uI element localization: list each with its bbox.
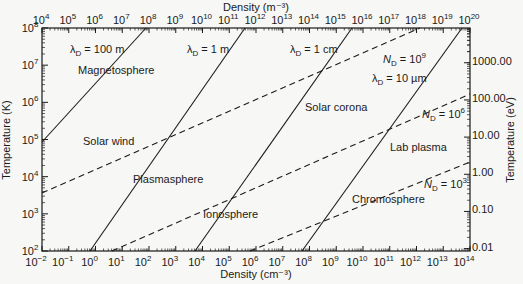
x-tick-label-top: 1020 — [458, 12, 480, 26]
x-tick-label-top: 1019 — [432, 12, 454, 26]
line-label: ND = 106 — [422, 106, 466, 123]
x-tick-label-bottom: 1011 — [373, 254, 394, 268]
x-tick-label-top: 1014 — [298, 12, 320, 26]
x-axis-title-bottom: Density (cm⁻³) — [220, 268, 291, 280]
x-tick-label-top: 107 — [113, 12, 130, 26]
line-label: λD = 1 cm — [290, 43, 338, 58]
y-tick-label-left: 102 — [22, 243, 39, 257]
region-label: Magnetosphere — [78, 64, 154, 76]
x-tick-label-bottom: 1012 — [400, 254, 422, 268]
x-tick-label-top: 1013 — [271, 12, 293, 26]
x-tick-label-bottom: 1010 — [346, 254, 368, 268]
x-tick-label-bottom: 102 — [135, 254, 152, 268]
y-tick-label-left: 105 — [22, 132, 39, 146]
plasma-parameter-chart: 10−210410−110510010610110710210810310910… — [0, 0, 523, 284]
x-tick-label-bottom: 101 — [108, 254, 125, 268]
x-tick-label-top: 1018 — [405, 12, 427, 26]
y-tick-label-right: 0.01 — [472, 241, 493, 253]
x-tick-label-top: 1016 — [351, 12, 373, 26]
region-label: Lab plasma — [390, 141, 448, 153]
region-label: Ionosphere — [203, 208, 258, 220]
x-tick-label-top: 1010 — [191, 12, 213, 26]
y-tick-label-right: 10.00 — [472, 129, 500, 141]
region-label: Solar wind — [83, 135, 134, 147]
region-label: Solar corona — [305, 101, 368, 113]
x-tick-label-bottom: 106 — [242, 254, 259, 268]
line-label: λD = 1 m — [187, 43, 229, 58]
x-tick-label-top: 1011 — [218, 12, 239, 26]
x-tick-label-bottom: 103 — [161, 254, 178, 268]
y-axis-title-left: Temperature (K) — [0, 100, 12, 179]
y-tick-label-right: 1.00 — [472, 166, 493, 178]
x-axis-title-top: Density (m⁻³) — [223, 1, 289, 13]
y-tick-label-left: 107 — [22, 57, 39, 71]
x-tick-label-top: 106 — [86, 12, 103, 26]
x-tick-label-top: 1017 — [378, 12, 400, 26]
debye-length-line — [302, 28, 462, 251]
nd-line — [250, 162, 470, 251]
y-tick-label-left: 103 — [22, 206, 39, 220]
x-tick-label-bottom: 105 — [215, 254, 232, 268]
line-label: ND = 109 — [383, 51, 427, 68]
x-tick-label-top: 105 — [59, 12, 76, 26]
x-tick-label-top: 1012 — [244, 12, 266, 26]
region-label: Chromosphere — [352, 193, 425, 205]
x-tick-label-top: 109 — [166, 12, 183, 26]
y-axis-title-right: Temperature (eV) — [504, 97, 516, 183]
x-tick-label-bottom: 1013 — [427, 254, 449, 268]
y-tick-label-left: 106 — [22, 94, 39, 108]
x-tick-label-bottom: 10−1 — [52, 254, 74, 268]
x-tick-label-top: 108 — [140, 12, 157, 26]
x-tick-label-bottom: 1014 — [453, 254, 475, 268]
x-tick-label-bottom: 108 — [295, 254, 312, 268]
line-label: λD = 10 µm — [372, 72, 427, 87]
y-tick-label-left: 108 — [22, 20, 39, 34]
region-label: Plasmasphere — [133, 173, 203, 185]
labels: 10−210410−110510010610110710210810310910… — [0, 1, 516, 280]
y-tick-label-right: 1000.00 — [472, 55, 512, 67]
x-tick-label-bottom: 104 — [188, 254, 205, 268]
line-label: λD = 100 m — [70, 43, 124, 58]
y-tick-label-left: 104 — [22, 169, 39, 183]
x-tick-label-top: 1015 — [325, 12, 347, 26]
x-tick-label-bottom: 100 — [81, 254, 98, 268]
y-tick-label-right: 100.00 — [472, 92, 506, 104]
y-tick-label-right: 0.10 — [472, 203, 493, 215]
x-tick-label-bottom: 109 — [322, 254, 339, 268]
line-label: ND = 103 — [424, 176, 468, 193]
x-tick-label-bottom: 107 — [268, 254, 285, 268]
